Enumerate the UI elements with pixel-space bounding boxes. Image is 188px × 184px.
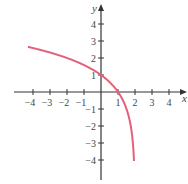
y-tick-label: 4 <box>91 19 96 30</box>
y-tick-label: −2 <box>85 121 96 132</box>
y-axis-arrow-icon <box>98 4 104 11</box>
x-tick-label: 2 <box>133 97 138 108</box>
x-tick-label: −4 <box>25 97 36 108</box>
x-tick-label: −3 <box>42 97 53 108</box>
y-tick-label: −3 <box>85 138 96 149</box>
x-tick-label: 4 <box>167 97 172 108</box>
y-tick-label: 3 <box>91 36 96 47</box>
x-axis-label: x <box>181 92 187 104</box>
axes: −4−3−2−11234−4−3−2−11234 <box>14 4 187 180</box>
y-tick-label: −1 <box>85 104 96 115</box>
y-tick-label: 2 <box>91 53 96 64</box>
x-tick-label: 3 <box>150 97 155 108</box>
x-tick-label: −2 <box>59 97 70 108</box>
chart: −4−3−2−11234−4−3−2−11234 x y <box>0 0 188 184</box>
x-tick-label: 1 <box>116 97 121 108</box>
y-tick-label: −4 <box>85 155 96 166</box>
plot-area: −4−3−2−11234−4−3−2−11234 x y <box>0 0 188 184</box>
y-axis-label: y <box>91 2 97 14</box>
